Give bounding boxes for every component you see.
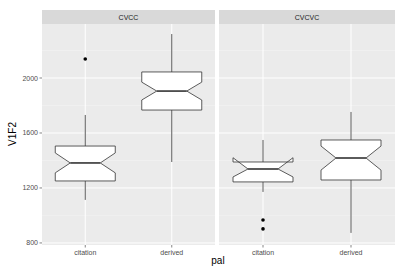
outlier-point — [83, 57, 87, 61]
outlier-point — [261, 218, 265, 222]
x-tick-label: derived — [160, 249, 183, 256]
y-tick-label: 2000 — [22, 75, 38, 82]
facet-panel-cvcc: CVCCcitationderived — [42, 10, 215, 256]
y-axis: 800120016002000 — [22, 75, 42, 247]
facet-panel-cvcvc: CVCVCcitationderived — [219, 10, 395, 256]
x-tick-label: citation — [74, 249, 96, 256]
y-tick-label: 1200 — [22, 184, 38, 191]
x-tick-label: citation — [252, 249, 274, 256]
x-axis-title: pal — [211, 255, 224, 266]
panel-background — [219, 24, 395, 245]
y-tick-label: 1600 — [22, 129, 38, 136]
facet-panels: CVCCcitationderivedCVCVCcitationderived — [42, 10, 395, 256]
facet-strip-label: CVCC — [119, 14, 139, 21]
facet-strip-label: CVCVC — [295, 14, 320, 21]
y-axis-title: V1F2 — [7, 122, 18, 146]
x-tick-label: derived — [340, 249, 363, 256]
boxplot-chart: CVCCcitationderivedCVCVCcitationderived … — [0, 0, 404, 274]
y-tick-label: 800 — [26, 239, 38, 246]
outlier-point — [261, 227, 265, 231]
panel-background — [42, 24, 215, 245]
